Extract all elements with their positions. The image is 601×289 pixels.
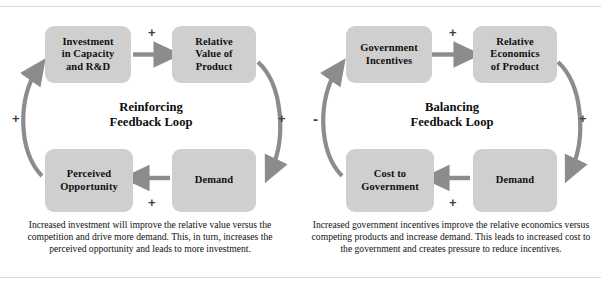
node-label: Demand <box>195 174 234 186</box>
balancing-loop-title: Balancing Feedback Loop <box>357 100 547 130</box>
node-label: Cost to Government <box>361 168 419 193</box>
arrow-right-economics-to-demand <box>558 62 580 168</box>
node-label: Investment in Capacity and R&D <box>62 36 115 73</box>
node-cost-to-government[interactable]: Cost to Government <box>346 149 434 212</box>
polarity-sign-top: + <box>449 26 457 39</box>
polarity-sign-top: + <box>148 26 156 39</box>
node-label: Relative Economics of Product <box>490 36 539 73</box>
node-relative-economics-of-product[interactable]: Relative Economics of Product <box>473 26 557 83</box>
node-demand-balancing[interactable]: Demand <box>473 149 557 212</box>
polarity-sign-bottom: + <box>449 196 457 209</box>
node-relative-value-of-product[interactable]: Relative Value of Product <box>172 26 256 83</box>
polarity-sign-left: - <box>313 112 318 125</box>
arrow-left-opportunity-to-investment <box>23 72 42 176</box>
node-label: Perceived Opportunity <box>60 168 118 193</box>
figure-canvas: Investment in Capacity and R&D Relative … <box>0 0 601 289</box>
node-label: Demand <box>496 174 535 186</box>
polarity-sign-bottom: + <box>148 196 156 209</box>
node-government-incentives[interactable]: Government Incentives <box>346 26 432 83</box>
arrow-right-value-to-demand <box>258 62 280 168</box>
arrow-left-cost-to-incentives <box>323 72 342 176</box>
balancing-feedback-loop: Government Incentives Relative Economics… <box>301 0 601 289</box>
node-investment-in-capacity-and-rd[interactable]: Investment in Capacity and R&D <box>45 26 131 83</box>
polarity-sign-left: + <box>12 112 20 125</box>
node-perceived-opportunity[interactable]: Perceived Opportunity <box>45 149 133 212</box>
reinforcing-feedback-loop: Investment in Capacity and R&D Relative … <box>0 0 300 289</box>
node-demand-reinforcing[interactable]: Demand <box>172 149 256 212</box>
balancing-loop-caption: Increased government incentives improve … <box>310 219 592 255</box>
polarity-sign-right: + <box>278 112 286 125</box>
reinforcing-loop-title: Reinforcing Feedback Loop <box>56 100 246 130</box>
node-label: Relative Value of Product <box>195 36 233 73</box>
reinforcing-loop-caption: Increased investment will improve the re… <box>13 219 287 255</box>
node-label: Government Incentives <box>360 42 418 67</box>
polarity-sign-right: + <box>579 112 587 125</box>
